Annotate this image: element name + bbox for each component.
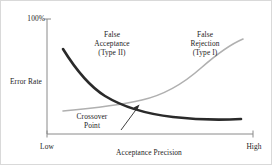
x-axis-tick-label-high: High — [241, 142, 267, 151]
crossover-line-1: Crossover — [61, 112, 123, 121]
x-axis-title: Acceptance Precision — [83, 148, 215, 157]
y-axis-max-label: 100% — [11, 14, 45, 23]
false-acceptance-line-2: Acceptance — [77, 39, 147, 48]
x-axis-tick-label-low: Low — [34, 142, 60, 151]
false-rejection-annotation: False Rejection (Type I) — [171, 30, 239, 58]
false-rejection-line-3: (Type I) — [171, 48, 239, 57]
false-acceptance-annotation: False Acceptance (Type II) — [77, 30, 147, 58]
crossover-point-annotation: Crossover Point — [61, 112, 123, 130]
false-acceptance-line-3: (Type II) — [77, 48, 147, 57]
false-rejection-line-2: Rejection — [171, 39, 239, 48]
false-rejection-line-1: False — [171, 30, 239, 39]
crossover-line-2: Point — [61, 121, 123, 130]
false-acceptance-line-1: False — [77, 30, 147, 39]
error-rate-crossover-chart: 100% Error Rate Acceptance Precision Low… — [0, 0, 272, 165]
y-axis-title: Error Rate — [7, 77, 45, 86]
